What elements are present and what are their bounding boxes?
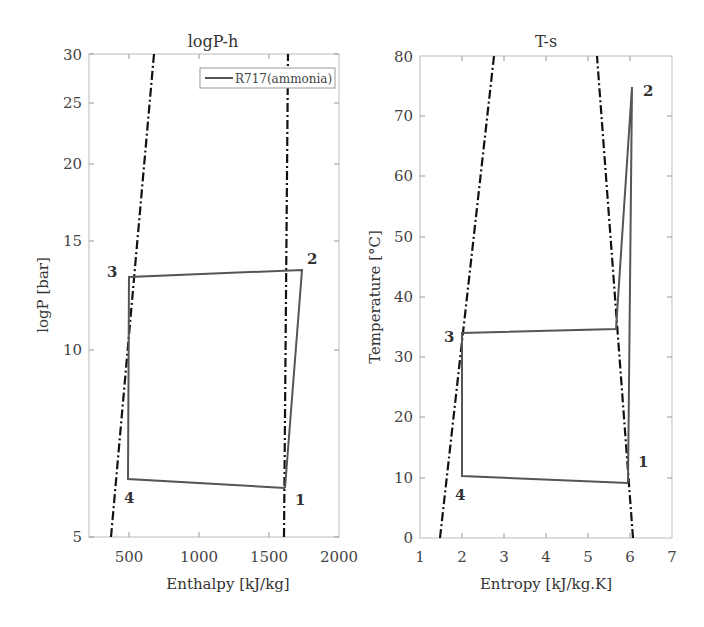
logp-h-y-ticks — [89, 54, 339, 537]
t-s-x-ticks — [462, 56, 630, 538]
cycle-line-r717 — [128, 270, 302, 488]
t-s-axes-frame — [420, 56, 672, 538]
logp-h-x-ticks — [129, 54, 269, 537]
y-tick-label: 10 — [63, 341, 82, 359]
point-label-4: 4 — [455, 486, 465, 504]
t-s-y-ticks — [420, 116, 672, 478]
t-s-plot: T-s 0 10 20 30 40 50 60 70 80 1 2 — [366, 32, 677, 593]
y-tick-label: 30 — [394, 348, 413, 366]
y-tick-label: 40 — [394, 288, 413, 306]
legend: R717(ammonia) — [200, 68, 335, 88]
logp-h-y-label: logP [bar] — [34, 257, 52, 333]
x-tick-label: 1000 — [180, 548, 218, 566]
t-s-y-label: Temperature [°C] — [366, 230, 384, 364]
x-tick-label: 500 — [115, 548, 144, 566]
point-label-2: 2 — [643, 82, 653, 100]
y-tick-label: 20 — [394, 408, 413, 426]
point-label-2: 2 — [307, 250, 317, 268]
cycle-line-r717 — [462, 87, 632, 483]
point-label-3: 3 — [107, 263, 117, 281]
t-s-title: T-s — [535, 32, 557, 51]
y-tick-label: 0 — [403, 529, 413, 547]
t-s-x-label: Entropy [kJ/kg.K] — [480, 575, 612, 593]
logp-h-plot: logP-h 5 10 15 20 25 30 500 1000 1500 20… — [34, 32, 358, 593]
x-tick-label: 3 — [499, 548, 509, 566]
y-tick-label: 15 — [63, 232, 82, 250]
x-tick-label: 2000 — [320, 548, 358, 566]
logp-h-x-label: Enthalpy [kJ/kg] — [166, 575, 289, 593]
figure: logP-h 5 10 15 20 25 30 500 1000 1500 20… — [0, 0, 704, 627]
logp-h-axes-frame — [89, 54, 339, 537]
x-tick-label: 1500 — [250, 548, 288, 566]
x-tick-label: 6 — [625, 548, 635, 566]
y-tick-label: 5 — [72, 528, 82, 546]
x-tick-label: 5 — [583, 548, 593, 566]
logp-h-title: logP-h — [188, 32, 239, 51]
x-tick-label: 7 — [667, 548, 677, 566]
x-tick-label: 1 — [415, 548, 425, 566]
saturated-liquid-line — [440, 56, 494, 538]
x-tick-label: 2 — [457, 548, 467, 566]
saturated-liquid-line — [111, 54, 154, 537]
y-tick-label: 50 — [394, 228, 413, 246]
y-tick-label: 20 — [63, 155, 82, 173]
x-tick-label: 4 — [541, 548, 551, 566]
point-label-1: 1 — [638, 453, 648, 471]
y-tick-label: 80 — [394, 48, 413, 66]
y-tick-label: 25 — [63, 94, 82, 112]
point-label-3: 3 — [444, 328, 454, 346]
legend-label: R717(ammonia) — [235, 72, 332, 86]
y-tick-label: 30 — [63, 46, 82, 64]
y-tick-label: 70 — [394, 107, 413, 125]
y-tick-label: 60 — [394, 167, 413, 185]
point-label-4: 4 — [124, 489, 134, 507]
point-label-1: 1 — [295, 491, 305, 509]
y-tick-label: 10 — [394, 469, 413, 487]
